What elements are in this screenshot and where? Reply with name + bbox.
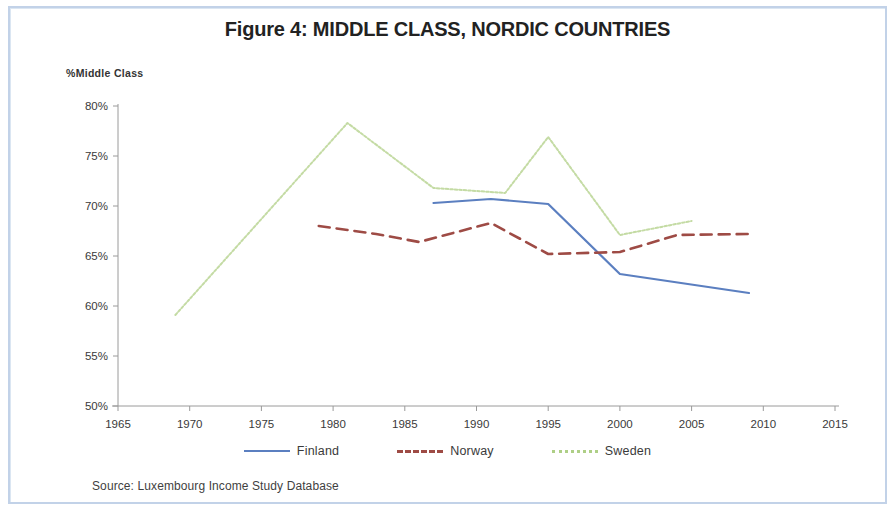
figure-page: Figure 4: MIDDLE CLASS, NORDIC COUNTRIES… bbox=[0, 0, 895, 510]
x-axis-tick-label: 1965 bbox=[88, 418, 148, 430]
chart-legend: FinlandNorwaySweden bbox=[0, 444, 895, 458]
source-note: Source: Luxembourg Income Study Database bbox=[92, 479, 339, 493]
series-line-sweden bbox=[175, 123, 691, 315]
x-axis-tick-label: 1975 bbox=[231, 418, 291, 430]
x-axis-tick-label: 1990 bbox=[447, 418, 507, 430]
y-axis-tick-label: 80% bbox=[64, 100, 108, 112]
x-axis-tick-label: 1970 bbox=[160, 418, 220, 430]
y-axis-tick-label: 55% bbox=[64, 350, 108, 362]
legend-swatch-sweden-icon bbox=[552, 450, 598, 453]
y-axis-tick-label: 75% bbox=[64, 150, 108, 162]
y-axis-tick-label: 50% bbox=[64, 400, 108, 412]
line-chart-plot bbox=[0, 0, 895, 510]
legend-item-sweden[interactable]: Sweden bbox=[552, 444, 651, 458]
chart-axes bbox=[112, 104, 839, 411]
series-line-norway bbox=[319, 223, 749, 254]
legend-label: Finland bbox=[297, 444, 339, 458]
y-axis-tick-label: 60% bbox=[64, 300, 108, 312]
legend-label: Norway bbox=[450, 444, 494, 458]
chart-series bbox=[175, 123, 749, 315]
x-axis-tick-label: 2000 bbox=[590, 418, 650, 430]
legend-swatch-finland-icon bbox=[244, 450, 290, 452]
x-axis-tick-label: 2010 bbox=[733, 418, 793, 430]
legend-label: Sweden bbox=[605, 444, 651, 458]
legend-item-finland[interactable]: Finland bbox=[244, 444, 339, 458]
legend-item-norway[interactable]: Norway bbox=[397, 444, 494, 458]
x-axis-tick-label: 1980 bbox=[303, 418, 363, 430]
legend-swatch-norway-icon bbox=[397, 450, 443, 453]
y-axis-tick-label: 70% bbox=[64, 200, 108, 212]
y-axis-tick-label: 65% bbox=[64, 250, 108, 262]
x-axis-tick-label: 1985 bbox=[375, 418, 435, 430]
series-line-finland bbox=[433, 199, 748, 293]
x-axis-tick-label: 2015 bbox=[805, 418, 865, 430]
x-axis-tick-label: 1995 bbox=[518, 418, 578, 430]
x-axis-tick-label: 2005 bbox=[662, 418, 722, 430]
